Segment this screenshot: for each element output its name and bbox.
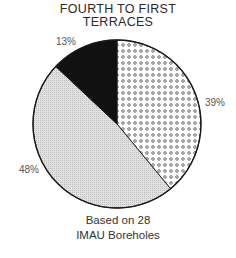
- label-gray-slice: 48%: [19, 164, 39, 175]
- annotation-line-2: IMAU Boreholes: [0, 228, 236, 243]
- chart-annotation: Based on 28 IMAU Boreholes: [0, 213, 236, 243]
- label-dotted-slice: 39%: [205, 97, 225, 108]
- label-black-slice: 13%: [56, 36, 76, 47]
- annotation-line-1: Based on 28: [0, 213, 236, 228]
